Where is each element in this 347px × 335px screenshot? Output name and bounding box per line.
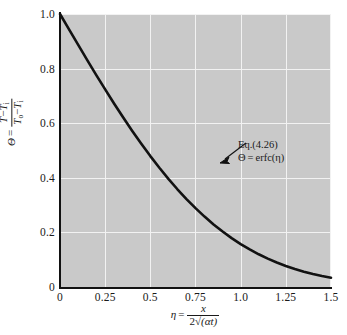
x-axis-title: η=x2√(αt) [60, 303, 331, 328]
plot-area: Eq.(4.26) Θ=erfc(η) [60, 14, 331, 287]
x-tick-label: 0.75 [176, 290, 216, 304]
y-den-minus: − [12, 109, 24, 115]
y-title-theta: Θ [5, 138, 17, 146]
x-den-inner: (αt) [201, 315, 217, 327]
x-tick-label: 1.0 [221, 290, 261, 304]
x-tick-label: 0.25 [85, 290, 125, 304]
x-title-equals: = [176, 308, 186, 320]
equation-callout: Eq.(4.26) Θ=erfc(η) [238, 138, 284, 164]
x-tick-label: 1.25 [266, 290, 306, 304]
y-axis-title: Θ=T−TiTo−Ti [0, 62, 26, 182]
y-title-equals: = [5, 128, 17, 138]
x-tick-label: 1.5 [311, 290, 347, 304]
y-den-Ti: T [12, 103, 24, 109]
figure-container: Eq.(4.26) Θ=erfc(η) 00.250.50.751.01.251… [0, 0, 347, 335]
y-den-To: T [12, 119, 24, 125]
callout-line-formula: Θ=erfc(η) [238, 151, 284, 164]
y-title-numerator: T−Ti [0, 98, 12, 126]
curve-svg [60, 14, 331, 287]
y-axis-spine [59, 12, 61, 289]
x-tick-label: 0.5 [130, 290, 170, 304]
x-title-denominator: 2√(αt) [187, 315, 219, 328]
callout-line-eq: Eq.(4.26) [238, 138, 284, 151]
y-den-Ti-sub: i [17, 100, 26, 102]
y-num-minus: − [0, 111, 9, 117]
y-num-Ti: T [0, 104, 9, 110]
y-title-denominator: To−Ti [12, 98, 26, 126]
x-title-fraction: x2√(αt) [187, 303, 219, 328]
y-tick-label: 1.0 [12, 8, 55, 20]
erfc-curve [60, 14, 331, 278]
callout-expression: erfc(η) [256, 152, 285, 163]
callout-theta: Θ [238, 152, 246, 163]
y-num-Ti-sub: i [2, 102, 11, 104]
x-title-numerator: x [187, 303, 219, 315]
y-tick-label: 0.2 [12, 226, 55, 238]
y-title-fraction: T−TiTo−Ti [0, 98, 26, 126]
x-axis-spine [59, 287, 332, 289]
callout-equals: = [246, 152, 256, 163]
y-tick-label: 0 [12, 281, 55, 293]
y-den-To-sub: o [17, 115, 26, 119]
y-num-T: T [0, 117, 9, 123]
